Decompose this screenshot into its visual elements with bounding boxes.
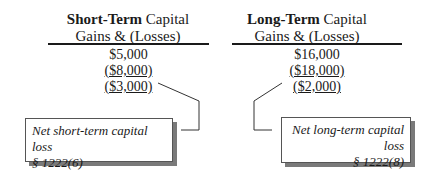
short-term-note-text: Net short-term capital loss (32, 123, 166, 155)
long-term-note-box: Net long-term capital loss § 1222(8) (281, 117, 411, 163)
short-term-note-section: § 1222(6) (32, 155, 166, 171)
long-term-note-section: § 1222(8) (288, 154, 404, 170)
short-term-note-box: Net short-term capital loss § 1222(6) (25, 118, 173, 162)
long-term-note-text: Net long-term capital loss (288, 122, 404, 154)
